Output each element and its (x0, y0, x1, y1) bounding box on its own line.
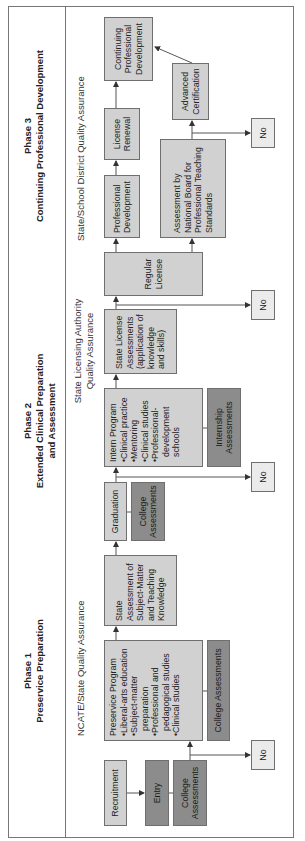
college-assessments-entry-box: College Assessments (173, 760, 207, 826)
internship-assessments-label: Internship Assessments (214, 393, 235, 462)
college-assessments-entry-label: College Assessments (180, 765, 201, 821)
internship-assessments-box: Internship Assessments (207, 388, 241, 467)
preservice-item: Professional and pedagogical studies (150, 645, 171, 736)
diagram-canvas: Phase 1 Preservice Preparation Phase 2 E… (0, 0, 305, 841)
entry-label: Entry (152, 783, 163, 804)
intern-item: Mentoring (129, 393, 140, 462)
entry-box: Entry (145, 760, 169, 826)
regular-license-box: Regular License (104, 252, 203, 296)
no-label: No (258, 127, 269, 138)
preservice-program-list: Liberal-arts education Subject-matter pr… (119, 645, 182, 736)
recruitment-box: Recruitment (104, 760, 127, 826)
college-assessments-graduation-label: College Assessments (138, 485, 159, 537)
no-box-phase2a: No (251, 462, 275, 492)
nbpts-assessment-box: Assessment by National Board for Profess… (160, 139, 226, 238)
preservice-program-title: Preservice Program (108, 645, 119, 736)
state-assessment-label: State Assessment of Subject-Matter and T… (114, 560, 167, 621)
no-box-phase1: No (251, 740, 275, 770)
no-label: No (258, 749, 269, 760)
no-box-phase2b: No (251, 290, 275, 320)
intern-item: Clinical studies (140, 393, 151, 462)
no-label: No (258, 299, 269, 310)
state-assessment-box: State Assessment of Subject-Matter and T… (104, 555, 177, 626)
continuing-pd-box: Continuing Professional Development (104, 17, 153, 81)
advanced-certification-label: Advanced Certification (180, 68, 201, 115)
no-box-phase3: No (251, 118, 275, 148)
professional-development-box: Professional Development (104, 175, 140, 238)
preservice-item: Liberal-arts education (119, 645, 130, 736)
graduation-label: Graduation (110, 490, 121, 534)
license-renewal-label: License Renewal (112, 113, 133, 155)
intern-program-list: Clinical practice Mentoring Clinical stu… (119, 393, 182, 462)
state-license-assessments-label: State License Assessments (application o… (114, 314, 167, 369)
recruitment-label: Recruitment (110, 769, 121, 816)
intern-item: Professional-development schools (150, 393, 182, 462)
graduation-box: Graduation (104, 482, 127, 541)
professional-development-label: Professional Development (112, 180, 133, 233)
preservice-program-box: Preservice Program Liberal-arts educatio… (104, 640, 203, 741)
college-assessments-preservice-label: College Assessments (213, 648, 224, 732)
advanced-certification-box: Advanced Certification (172, 63, 209, 120)
nbpts-assessment-label: Assessment by National Board for Profess… (172, 144, 214, 233)
preservice-item: Subject-matter preparation (129, 645, 150, 736)
license-renewal-box: License Renewal (104, 108, 140, 160)
preservice-item: Clinical studies (171, 645, 182, 736)
no-label: No (258, 471, 269, 482)
college-assessments-preservice-box: College Assessments (207, 640, 230, 741)
state-license-assessments-box: State License Assessments (application o… (104, 309, 177, 374)
intern-program-box: Intern Program Clinical practice Mentori… (104, 388, 203, 467)
regular-license-label: Regular License (143, 257, 164, 291)
college-assessments-graduation-box: College Assessments (131, 482, 165, 541)
intern-program-title: Intern Program (108, 393, 119, 462)
continuing-pd-label: Continuing Professional Development (113, 22, 145, 76)
intern-item: Clinical practice (119, 393, 130, 462)
